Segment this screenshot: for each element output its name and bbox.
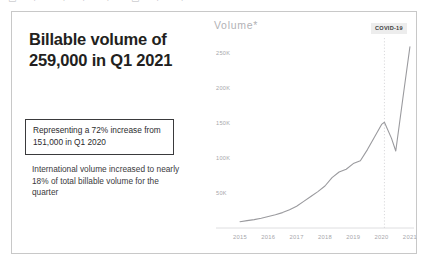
x-axis-tick: 2018 — [318, 234, 332, 240]
slide-card: Billable volume of 259,000 in Q1 2021 Re… — [11, 11, 417, 254]
plot-area: 50K100K150K200K250K 20152016201720182019… — [202, 12, 418, 255]
y-axis-tick: 50K — [216, 190, 227, 196]
x-axis-tick: 2020 — [375, 234, 389, 240]
supporting-text: International volume increased to nearly… — [32, 164, 184, 199]
toolbar-glyph-fragments: ▭ ⌐ ¬ ⌐ ⌐ ▭ ⌐ ⌐ — [8, 0, 195, 4]
y-axis-tick: 100K — [216, 155, 230, 161]
x-axis-tick: 2016 — [261, 234, 275, 240]
line-chart-svg — [202, 12, 418, 255]
left-panel: Billable volume of 259,000 in Q1 2021 Re… — [12, 12, 202, 253]
y-axis-tick: 150K — [216, 120, 230, 126]
chart-panel: Volume* COVID-19 50K100K150K200K250K 201… — [202, 12, 418, 255]
x-axis-tick: 2015 — [233, 234, 247, 240]
x-axis-tick: 2021 — [403, 234, 417, 240]
x-axis-tick: 2017 — [290, 234, 304, 240]
page-title: Billable volume of 259,000 in Q1 2021 — [29, 29, 179, 71]
x-axis-tick: 2019 — [346, 234, 360, 240]
cropped-toolbar-strip: ▭ ⌐ ¬ ⌐ ⌐ ▭ ⌐ ⌐ — [0, 0, 429, 7]
callout-text: Representing a 72% increase from 151,000… — [33, 125, 166, 148]
y-axis-tick: 200K — [216, 85, 230, 91]
callout-box: Representing a 72% increase from 151,000… — [25, 119, 174, 155]
y-axis-tick: 250K — [216, 50, 230, 56]
